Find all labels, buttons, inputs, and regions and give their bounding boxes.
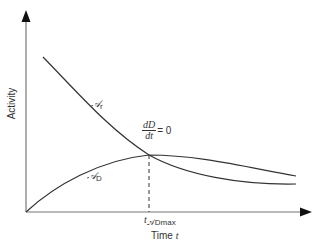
y-axis-arrow-icon bbox=[22, 10, 31, 22]
curve-parent-symbol: 𝒜 bbox=[91, 98, 100, 109]
y-axis-label: Activity bbox=[6, 88, 17, 120]
derivative-annotation: dD dt = 0 bbox=[142, 120, 171, 141]
curve-daughter-symbol: 𝒜 bbox=[87, 170, 96, 181]
curve-daughter-activity bbox=[26, 155, 296, 212]
derivative-denominator: dt bbox=[145, 131, 153, 141]
derivative-equals: = 0 bbox=[157, 125, 171, 136]
derivative-fraction: dD dt bbox=[142, 120, 156, 141]
curve-daughter-label: 𝒜D bbox=[87, 170, 102, 182]
tick-subscript: 𝒜Dmax bbox=[147, 218, 176, 227]
x-axis-arrow-icon bbox=[300, 208, 312, 217]
x-axis-label-var: t bbox=[176, 230, 179, 241]
curve-parent-subscript: r bbox=[100, 102, 103, 111]
curve-daughter-subscript: D bbox=[96, 174, 102, 183]
x-axis-label-text: Time bbox=[151, 230, 176, 241]
curve-parent-label: 𝒜r bbox=[91, 98, 103, 110]
x-axis-label: Time t bbox=[151, 230, 178, 241]
tmax-tick-label: t𝒜Dmax bbox=[144, 214, 176, 226]
